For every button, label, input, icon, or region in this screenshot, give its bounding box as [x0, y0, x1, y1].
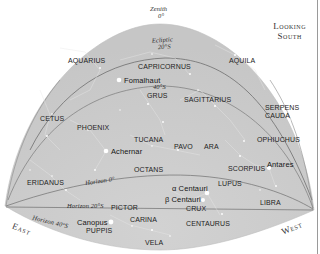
bright-star-label: Canopus: [77, 219, 108, 227]
canopus-dot: [109, 220, 114, 225]
chart-title: Looking South: [273, 21, 306, 42]
bright-star-label: β Centauri: [165, 196, 201, 204]
constellation-label: CETUS: [40, 115, 64, 122]
zenith-value: 0°: [150, 13, 167, 20]
constellation-label: LIBRA: [260, 199, 281, 206]
constellation-label: CAPRICORNUS: [138, 63, 191, 70]
constellation-label: SAGITTARIUS: [184, 96, 231, 103]
constellation-label: CENTAURUS: [186, 220, 230, 227]
constellation-label: PUPPIS: [86, 227, 112, 234]
constellation-label: GRUS: [147, 92, 168, 99]
zenith-label: Zenith 0°: [150, 6, 167, 19]
constellation-label: CARINA: [130, 216, 157, 223]
achernar-dot: [104, 149, 109, 154]
constellation-label: TUCANA: [134, 136, 163, 143]
bright-star-label: Antares: [267, 161, 294, 169]
constellation-label: LUPUS: [218, 180, 242, 187]
bright-star-label: Achernar: [111, 148, 142, 156]
constellation-label: ARA: [204, 143, 219, 150]
constellation-label: OCTANS: [134, 166, 163, 173]
fomalhaut-dot: [117, 78, 122, 83]
bright-star-label: α Centauri: [172, 185, 208, 193]
title-line-2: South: [273, 31, 306, 41]
constellation-label: VELA: [145, 239, 163, 246]
page-edge-line: [317, 0, 318, 254]
constellation-label: ERIDANUS: [27, 179, 64, 186]
constellation-label: OPHIUCHUS: [257, 136, 300, 143]
title-line-1: Looking: [273, 21, 306, 31]
star-chart: Looking South Zenith 0° Ecliptic 20°S 40…: [0, 0, 320, 254]
constellation-label: PAVO: [174, 143, 193, 150]
constellation-label: SCORPIUS: [228, 165, 265, 172]
ecliptic-label: Ecliptic 20°S: [152, 36, 174, 50]
constellation-label: PHOENIX: [77, 124, 109, 131]
constellation-label: CAUDA: [265, 112, 290, 119]
beta-centauri-dot: [201, 198, 205, 202]
constellation-label: CRUX: [186, 205, 206, 212]
constellation-label: AQUARIUS: [68, 57, 105, 64]
constellation-label: AQUILA: [229, 57, 255, 64]
constellation-label: SERPENS: [265, 104, 299, 111]
horizon-20-label: Horizon 20°S: [67, 203, 103, 210]
bright-star-label: Fomalhaut: [124, 77, 160, 85]
constellation-label: PICTOR: [111, 204, 138, 211]
